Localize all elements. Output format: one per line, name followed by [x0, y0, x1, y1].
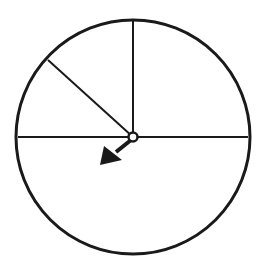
diagonal-divider — [48, 60, 133, 137]
pivot-center — [132, 136, 134, 138]
spinner-arrow-icon — [100, 140, 131, 165]
spinner-diagram — [0, 0, 264, 269]
